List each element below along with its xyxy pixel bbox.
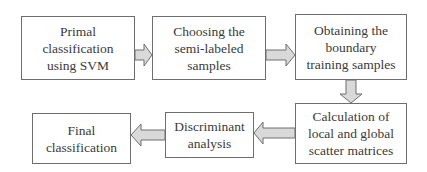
arrow-down-icon (340, 80, 362, 103)
arrow-left-icon (254, 122, 295, 144)
arrows-layer (0, 0, 427, 172)
arrow-right-icon (135, 44, 152, 66)
arrow-right-icon (266, 44, 295, 66)
arrow-left-icon (131, 124, 165, 146)
